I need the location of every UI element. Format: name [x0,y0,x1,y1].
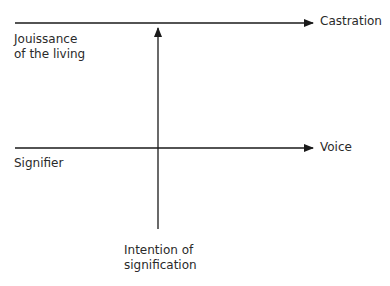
intention-label: Intention of signification [124,243,197,273]
intention-label-line-2: signification [124,258,197,273]
intention-label-line-1: Intention of [124,243,197,258]
castration-label: Castration [320,14,382,29]
voice-label: Voice [320,140,352,155]
jouissance-label: Jouissance of the living [14,32,85,62]
jouissance-label-line-2: of the living [14,47,85,62]
signifier-label: Signifier [14,156,63,171]
jouissance-label-line-1: Jouissance [14,32,85,47]
